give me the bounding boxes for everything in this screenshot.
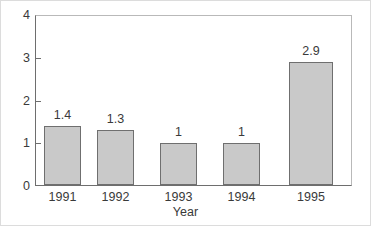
bar-group-1992: 1.3 bbox=[97, 15, 134, 185]
bar-group-1994: 1 bbox=[223, 15, 260, 185]
bar-value-label: 2.9 bbox=[302, 45, 319, 58]
y-axis-tick-label: 1 bbox=[4, 137, 30, 150]
x-axis-tick-label: 1992 bbox=[102, 191, 130, 204]
y-axis-tick-label: 2 bbox=[4, 94, 30, 107]
bar[interactable] bbox=[97, 130, 134, 185]
bar-value-label: 1.4 bbox=[54, 109, 71, 122]
y-axis-tick-label: 0 bbox=[4, 180, 30, 193]
bar[interactable] bbox=[160, 143, 197, 186]
bar[interactable] bbox=[223, 143, 260, 186]
y-axis-tick-labels: 4 3 2 1 0 bbox=[0, 15, 30, 186]
bar[interactable] bbox=[289, 62, 333, 185]
bar-group-1991: 1.4 bbox=[44, 15, 81, 185]
bar-value-label: 1 bbox=[175, 126, 182, 139]
bar-series: 1.4 1.3 1 1 2.9 bbox=[36, 15, 351, 185]
bar-chart-figure: 4 3 2 1 0 1.4 1.3 1 1 2.9 bbox=[0, 0, 371, 226]
bar[interactable] bbox=[44, 126, 81, 186]
bar-value-label: 1.3 bbox=[107, 113, 124, 126]
x-axis-tick-label: 1994 bbox=[228, 191, 256, 204]
x-axis-tick-label: 1995 bbox=[297, 191, 325, 204]
bar-group-1995: 2.9 bbox=[289, 15, 333, 185]
x-axis-tick-label: 1993 bbox=[165, 191, 193, 204]
x-axis-tick-label: 1991 bbox=[49, 191, 77, 204]
y-axis-tick-label: 4 bbox=[4, 9, 30, 22]
y-axis-tick-label: 3 bbox=[4, 52, 30, 65]
x-axis-title: Year bbox=[0, 206, 371, 219]
bar-group-1993: 1 bbox=[160, 15, 197, 185]
bar-value-label: 1 bbox=[238, 126, 245, 139]
